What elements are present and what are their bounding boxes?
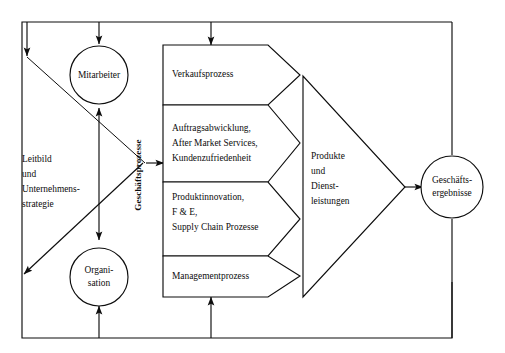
business-process-diagram: Mitarbeiter Organi- sation Leitbild und …	[0, 0, 505, 353]
node-geschaeftsergebnisse-label-line1: Geschäfts-	[432, 175, 472, 185]
strategy-line3: Unternehmens-	[22, 184, 80, 194]
output-line4: leistungen	[311, 196, 350, 206]
process-box-produktinnovation-line2: F & E,	[172, 207, 197, 217]
diagram-canvas: Mitarbeiter Organi- sation Leitbild und …	[0, 0, 505, 353]
output-line2: und	[311, 166, 325, 176]
process-box-managementprozess-line1: Managementprozess	[172, 271, 249, 281]
node-organisation[interactable]	[70, 248, 128, 306]
process-box-verkaufsprozess-line1: Verkaufsprozess	[172, 69, 234, 79]
strategy-line1: Leitbild	[22, 154, 52, 164]
node-organisation-label-line2: sation	[88, 278, 111, 288]
node-mitarbeiter-label: Mitarbeiter	[78, 70, 121, 80]
node-organisation-label-line1: Organi-	[85, 265, 114, 275]
output-line1: Produkte	[311, 151, 345, 161]
node-geschaeftsergebnisse[interactable]	[421, 156, 483, 218]
strategy-line2: und	[22, 169, 36, 179]
process-box-auftragsabwicklung-line1: Auftragsabwicklung,	[172, 123, 251, 133]
vertical-label-geschaeftsprozesse: Geschäftsprozesse	[133, 139, 143, 210]
process-box-produktinnovation-line3: Supply Chain Prozesse	[172, 222, 258, 232]
strategy-line4: strategie	[22, 199, 54, 209]
output-line3: Dienst-	[311, 181, 339, 191]
node-geschaeftsergebnisse-label-line2: ergebnisse	[432, 188, 471, 198]
process-box-produktinnovation-line1: Produktinnovation,	[172, 192, 244, 202]
process-box-auftragsabwicklung-line3: Kundenzufriedenheit	[172, 153, 252, 163]
process-box-auftragsabwicklung-line2: After Market Services,	[172, 138, 258, 148]
